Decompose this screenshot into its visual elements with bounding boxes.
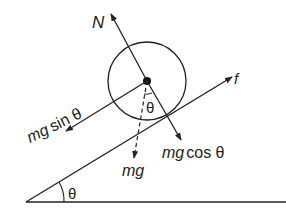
incline-line <box>26 77 232 202</box>
theta-incline-label: θ <box>68 185 76 202</box>
friction-label: f <box>234 70 240 87</box>
normal-force-label: N <box>92 13 105 32</box>
incline-force-diagram: N f θ θ mgsin θ mgcos θ mg <box>0 0 286 218</box>
center-angle-arc <box>144 93 152 94</box>
normal-force-arrow <box>111 14 147 81</box>
incline-angle-arc <box>59 182 64 202</box>
mg-sin-arrow <box>66 81 147 131</box>
theta-center-label: θ <box>146 99 154 116</box>
mg-cos-label: mgcos θ <box>162 144 225 161</box>
mg-label: mg <box>122 162 144 179</box>
